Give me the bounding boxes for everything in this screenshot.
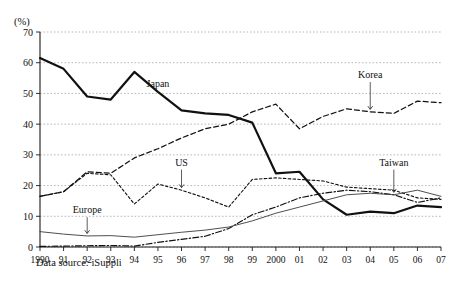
series-annotation-japan: Japan [147,78,170,89]
x-tick-label: 98 [224,255,234,265]
x-tick-label: 99 [248,255,258,265]
y-tick-label: 10 [23,211,33,222]
x-tick-label: 94 [130,255,140,265]
x-tick-label: 04 [365,255,375,265]
series-annotation-europe: Europe [73,204,102,215]
series-annotation-korea: Korea [358,69,383,80]
x-tick-label: 01 [295,255,305,265]
series-annotation-taiwan: Taiwan [379,157,408,168]
x-tick-label: 2000 [266,255,285,265]
x-tick-label: 07 [436,255,446,265]
chart-figure: (%) 010203040506070 19909192939495969798… [0,0,454,288]
y-tick-label: 20 [23,180,33,191]
series-line-japan [40,58,441,215]
y-tick-label: 30 [23,149,33,160]
series-group [40,58,441,246]
series-line-korea [40,101,441,196]
x-tick-label: 02 [318,255,328,265]
x-tick-label: 97 [200,255,210,265]
series-annotation-us: US [175,157,188,168]
data-source-note: Data source: iSuppli [36,257,122,268]
y-tick-label: 60 [23,57,33,68]
y-tick-label: 0 [28,242,33,253]
x-tick-label: 05 [389,255,399,265]
y-tick-labels-group: 010203040506070 [23,27,33,253]
x-tick-label: 03 [342,255,352,265]
axes-group [36,32,441,251]
x-tick-label: 06 [413,255,423,265]
series-line-us [40,173,441,207]
x-tick-label: 95 [153,255,163,265]
y-tick-label: 40 [23,119,33,130]
x-tick-label: 96 [177,255,187,265]
line-chart-canvas: 010203040506070 199091929394959697989920… [0,0,454,288]
y-tick-label: 70 [23,27,33,38]
series-line-taiwan [40,190,441,246]
y-tick-label: 50 [23,88,33,99]
